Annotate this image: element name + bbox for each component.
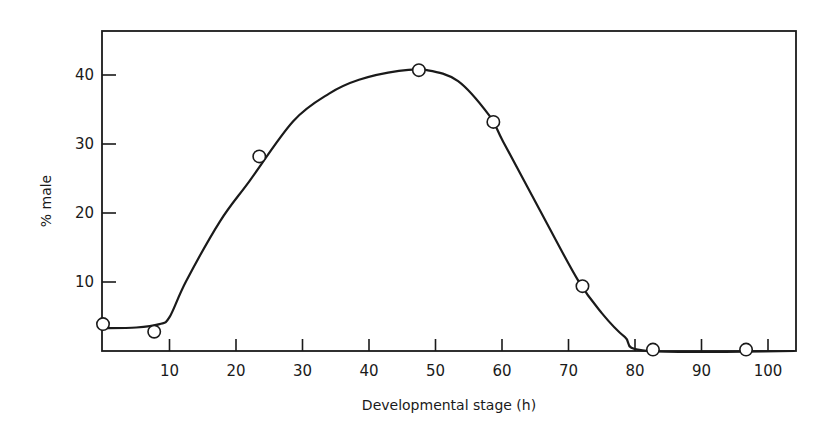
data-point-marker <box>487 116 499 128</box>
x-tick-label: 80 <box>625 362 644 380</box>
y-tick-label: 20 <box>75 204 94 222</box>
x-tick-label: 20 <box>226 362 245 380</box>
data-point-marker <box>97 318 109 330</box>
x-tick-label: 50 <box>426 362 445 380</box>
plot-border <box>102 31 796 351</box>
fitted-curve <box>103 69 795 352</box>
x-tick-label: 100 <box>754 362 783 380</box>
data-point-marker <box>647 343 659 355</box>
data-point-marker <box>413 64 425 76</box>
y-tick-label: 10 <box>75 273 94 291</box>
y-axis-ticks: 10203040 <box>75 66 116 291</box>
plot-frame <box>102 31 796 351</box>
x-tick-label: 10 <box>160 362 179 380</box>
y-tick-label: 30 <box>75 135 94 153</box>
data-point-marker <box>740 343 752 355</box>
x-axis-ticks: 102030405060708090100 <box>160 339 782 380</box>
x-tick-label: 40 <box>359 362 378 380</box>
data-point-marker <box>253 150 265 162</box>
y-axis-title: % male <box>38 175 54 227</box>
x-tick-label: 90 <box>692 362 711 380</box>
x-tick-label: 70 <box>559 362 578 380</box>
x-tick-label: 60 <box>492 362 511 380</box>
x-tick-label: 30 <box>293 362 312 380</box>
data-point-marker <box>576 280 588 292</box>
data-point-marker <box>148 325 160 337</box>
data-points <box>97 64 752 356</box>
x-axis-title: Developmental stage (h) <box>362 397 536 413</box>
y-tick-label: 40 <box>75 66 94 84</box>
line-chart: 102030405060708090100 10203040 Developme… <box>0 0 826 432</box>
